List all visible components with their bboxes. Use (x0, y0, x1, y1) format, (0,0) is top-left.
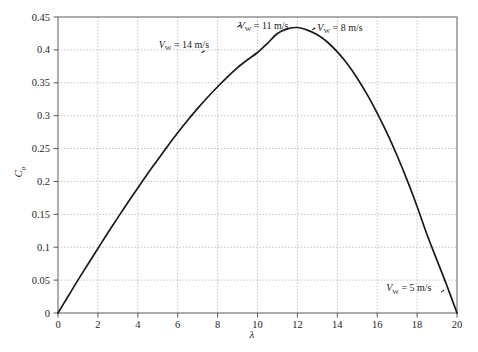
x-tick-label: 14 (332, 319, 343, 330)
y-tick-label: 0.4 (37, 44, 51, 55)
x-tick-label: 16 (372, 319, 383, 330)
cp-vs-lambda-chart: 02468101214161820 00.050.10.150.20.250.3… (0, 0, 478, 352)
x-tick-label: 20 (452, 319, 463, 330)
y-tick-label: 0.25 (32, 143, 50, 154)
y-tick-label: 0 (45, 308, 50, 319)
y-tick-label: 0.2 (37, 176, 50, 187)
y-tick-label: 0.35 (32, 77, 50, 88)
y-tick-label: 0.45 (32, 12, 50, 23)
x-tick-label: 2 (95, 319, 100, 330)
x-axis-title: λ (249, 328, 255, 340)
y-tick-label: 0.3 (37, 110, 50, 121)
x-tick-label: 0 (55, 319, 60, 330)
x-tick-label: 4 (135, 319, 141, 330)
x-tick-label: 18 (412, 319, 423, 330)
y-tick-label: 0.15 (32, 209, 50, 220)
x-tick-label: 6 (175, 319, 180, 330)
y-tick-label: 0.1 (37, 242, 50, 253)
x-tick-label: 12 (292, 319, 303, 330)
x-tick-label: 8 (215, 319, 220, 330)
y-tick-label: 0.05 (32, 275, 50, 286)
